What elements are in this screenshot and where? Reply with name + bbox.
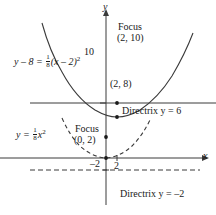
equation-upper-denominator: 8 [46,61,50,69]
y-axis-label: y [103,2,107,12]
directrix-lower-label: Directrix y = –2 [120,189,184,199]
equation-upper-parabola: y – 8 = 1 8 (x – 2)2 [14,55,80,71]
equation-upper-rhs: (x – 2) [51,56,77,67]
focus-lower-point [104,135,108,139]
equation-lower-lhs: y = [16,129,32,140]
equation-upper-exponent: 2 [77,55,81,63]
equation-lower-numerator: 1 [33,127,37,134]
equation-upper-fraction: 1 8 [46,54,50,70]
equation-lower-parabola: y = 1 8 x2 [16,128,46,144]
focus-lower-title: Focus [75,124,99,134]
equation-lower-denominator: 8 [33,134,37,142]
tick-label-y-10: 10 [84,47,94,57]
equation-upper-numerator: 1 [46,54,50,61]
vertex-upper-point [115,115,119,119]
focus-upper-title: Focus [118,22,142,32]
tick-label-y-neg2: –2 [90,159,100,169]
vertex-upper-coordinates: (2, 8) [110,79,132,89]
tick-label-x-2: 2 [114,161,119,171]
directrix-upper-label: Directrix y = 6 [122,106,181,116]
focus-lower-coordinates: (0, 2) [74,135,96,145]
parabola-figure: y – 8 = 1 8 (x – 2)2 y = 1 8 x2 Focus (2… [0,0,216,215]
vertex-lower-point [104,156,108,160]
equation-upper-lhs: y – 8 = [14,56,45,67]
equation-lower-fraction: 1 8 [33,127,37,143]
focus-upper-point [115,101,119,105]
equation-lower-exponent: 2 [42,128,46,136]
focus-upper-coordinates: (2, 10) [117,33,144,43]
coordinate-plot [0,0,216,215]
x-axis-label: x [203,151,207,161]
